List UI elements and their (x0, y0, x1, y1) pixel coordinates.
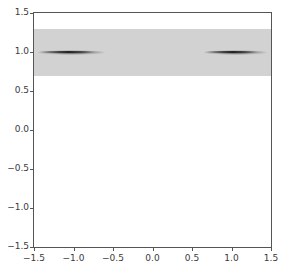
axis-spine-left (33, 12, 34, 248)
y-tick-mark (30, 169, 33, 170)
x-tick-mark (192, 248, 193, 251)
x-tick-mark (113, 248, 114, 251)
y-tick-mark (30, 130, 33, 131)
x-tick-label: −1.5 (14, 253, 54, 263)
x-tick-mark (74, 248, 75, 251)
x-tick-label: −0.5 (93, 253, 133, 263)
x-tick-label: 0.0 (133, 253, 173, 263)
left-streak-core (38, 51, 105, 52)
plot-axes: −1.5−1.0−0.50.00.51.01.5 −1.5−1.0−0.50.0… (33, 12, 272, 248)
x-tick-mark (271, 248, 272, 251)
y-tick-mark (30, 247, 33, 248)
y-tick-label: −0.5 (0, 163, 29, 173)
y-tick-label: −1.0 (0, 202, 29, 212)
x-tick-label: 1.0 (212, 253, 252, 263)
x-tick-label: 0.5 (172, 253, 212, 263)
y-tick-label: 0.0 (0, 124, 29, 134)
y-tick-mark (30, 208, 33, 209)
y-tick-label: 1.5 (0, 7, 29, 17)
y-tick-label: 0.5 (0, 85, 29, 95)
x-tick-label: −1.0 (54, 253, 94, 263)
axis-spine-right (271, 12, 272, 248)
y-tick-label: −1.5 (0, 241, 29, 251)
y-tick-label: 1.0 (0, 46, 29, 56)
y-tick-mark (30, 91, 33, 92)
plot-area (34, 13, 271, 247)
y-tick-mark (30, 13, 33, 14)
x-tick-mark (232, 248, 233, 251)
right-streak-core (204, 51, 267, 52)
x-tick-mark (34, 248, 35, 251)
figure: −1.5−1.0−0.50.00.51.01.5 −1.5−1.0−0.50.0… (0, 0, 281, 274)
x-tick-label: 1.5 (251, 253, 281, 263)
y-tick-mark (30, 52, 33, 53)
x-tick-mark (153, 248, 154, 251)
axis-spine-top (33, 12, 272, 13)
